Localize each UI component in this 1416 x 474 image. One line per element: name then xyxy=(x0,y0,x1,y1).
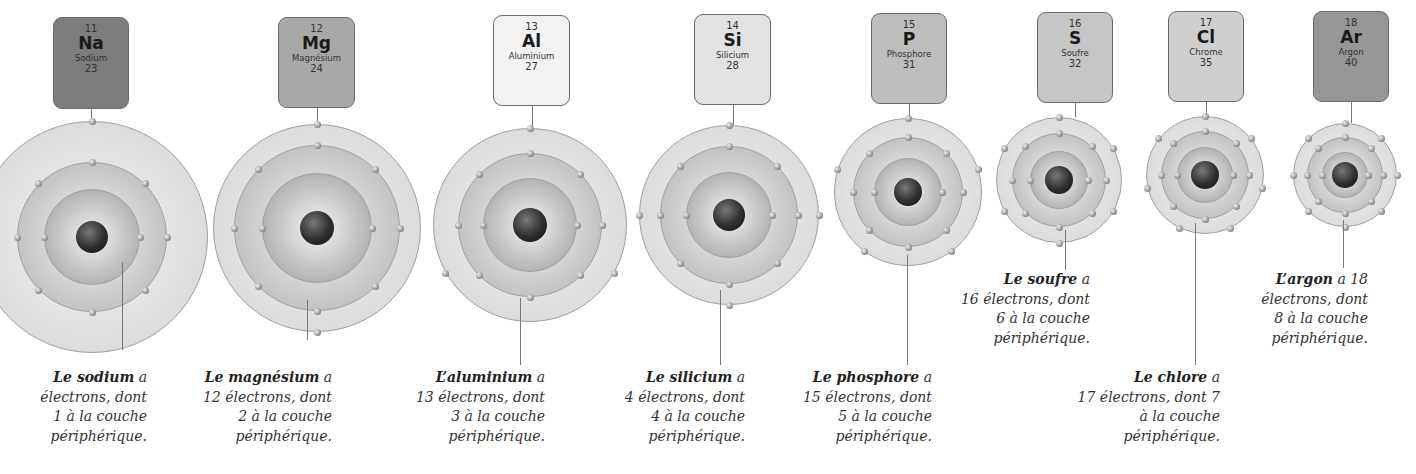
nucleus xyxy=(513,208,547,242)
caption-rest: a xyxy=(319,369,332,385)
electron xyxy=(683,212,690,219)
electron xyxy=(1315,145,1322,152)
caption-rest: a 18 xyxy=(1333,271,1368,287)
electron xyxy=(137,234,144,241)
atom-al xyxy=(433,128,627,322)
connector-line xyxy=(1075,103,1076,117)
element-symbol: P xyxy=(872,30,946,49)
nucleus xyxy=(713,199,745,231)
electron xyxy=(577,171,584,178)
caption-p: Le phosphore a15 électrons, dont5 à la c… xyxy=(790,368,932,446)
electron xyxy=(1394,172,1401,179)
element-card-ar: 18ArArgon40 xyxy=(1313,11,1389,102)
electron xyxy=(455,222,462,229)
element-symbol: S xyxy=(1038,29,1112,48)
electron xyxy=(527,125,534,132)
electron xyxy=(816,212,823,219)
electron xyxy=(259,225,266,232)
element-symbol: Si xyxy=(695,31,770,50)
atom-ar xyxy=(1293,123,1397,227)
atomic-mass: 24 xyxy=(279,63,354,75)
electron xyxy=(850,189,857,196)
electron xyxy=(1001,208,1008,215)
element-name-bold: Le magnésium xyxy=(205,369,320,385)
electron xyxy=(142,287,149,294)
caption-line-4: périphérique. xyxy=(0,427,147,447)
element-symbol: Ar xyxy=(1314,28,1388,47)
element-name-bold: Le soufre xyxy=(1004,271,1077,287)
element-name: Phosphore xyxy=(872,49,946,59)
electron xyxy=(726,281,733,288)
electron xyxy=(1103,177,1110,184)
element-name-bold: Le sodium xyxy=(53,369,134,385)
electron xyxy=(231,225,238,232)
caption-line-1: Le phosphore a xyxy=(790,368,932,388)
electron xyxy=(1110,145,1117,152)
caption-rest: a xyxy=(732,369,745,385)
electron xyxy=(1056,130,1063,137)
electron xyxy=(866,227,873,234)
electron xyxy=(314,308,321,315)
atomic-mass: 40 xyxy=(1314,57,1388,69)
electron xyxy=(1365,172,1372,179)
electron xyxy=(372,166,379,173)
electron xyxy=(397,225,404,232)
caption-line-1: L’aluminium a xyxy=(395,368,545,388)
caption-line-3: 6 à la couche xyxy=(950,309,1090,329)
caption-rest: a xyxy=(919,369,932,385)
electron xyxy=(527,294,534,301)
element-card-p: 15PPhosphore31 xyxy=(871,13,947,104)
electron xyxy=(1056,114,1063,121)
electron xyxy=(939,189,946,196)
caption-line-3: 3 à la couche xyxy=(395,407,545,427)
caption-line-1: Le soufre a xyxy=(950,270,1090,290)
atomic-mass: 31 xyxy=(872,59,946,71)
electron xyxy=(975,166,982,173)
element-symbol: Na xyxy=(54,34,128,53)
electron xyxy=(1001,145,1008,152)
electron xyxy=(369,225,376,232)
caption-line-3: 8 à la couche xyxy=(1260,309,1368,329)
electron xyxy=(726,302,733,309)
electron xyxy=(1315,198,1322,205)
caption-line-1: Le sodium a xyxy=(0,368,147,388)
caption-line-4: périphérique. xyxy=(180,427,332,447)
electron xyxy=(1342,134,1349,141)
electron xyxy=(1158,172,1165,179)
atom-mg xyxy=(213,124,421,332)
atomic-mass: 23 xyxy=(54,63,128,75)
electron xyxy=(1202,113,1209,120)
element-name-bold: L’aluminium xyxy=(436,369,533,385)
electron xyxy=(574,222,581,229)
element-name-bold: Le silicium xyxy=(646,369,732,385)
caption-line-2: 13 électrons, dont xyxy=(395,388,545,408)
electron xyxy=(905,115,912,122)
electron xyxy=(1259,185,1266,192)
caption-ar: L’argon a 18électrons, dont8 à la couche… xyxy=(1260,270,1368,348)
caption-na: Le sodium aélectrons, dont1 à la couchep… xyxy=(0,368,147,446)
atomic-mass: 35 xyxy=(1169,57,1243,69)
connector-line xyxy=(1351,102,1352,123)
element-symbol: Mg xyxy=(279,34,354,53)
electron xyxy=(834,166,841,173)
caption-line-4: périphérique. xyxy=(790,427,932,447)
caption-si: Le silicium a4 électrons, dont4 à la cou… xyxy=(590,368,745,446)
nucleus xyxy=(1332,162,1358,188)
caption-line-1: L’argon a 18 xyxy=(1260,270,1368,290)
electron xyxy=(1056,224,1063,231)
atom-s xyxy=(996,117,1122,243)
electron xyxy=(164,234,171,241)
electron xyxy=(726,122,733,129)
electron xyxy=(1246,172,1253,179)
electron xyxy=(1319,172,1326,179)
element-card-si: 14SiSilicium28 xyxy=(694,14,771,105)
nucleus xyxy=(76,221,108,253)
element-name: Argon xyxy=(1314,47,1388,57)
caption-s: Le soufre a16 électrons, dont6 à la couc… xyxy=(950,270,1090,348)
caption-line-4: périphérique. xyxy=(1260,329,1368,349)
electron xyxy=(1304,172,1311,179)
electron xyxy=(1089,143,1096,150)
caption-line-3: 4 à la couche xyxy=(590,407,745,427)
nucleus xyxy=(894,178,922,206)
electron xyxy=(1176,225,1183,232)
